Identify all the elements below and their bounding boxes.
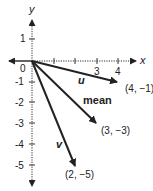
y-tick-label: -4	[15, 139, 24, 150]
vector-u-arrow	[32, 61, 117, 82]
x-axis-label: x	[139, 54, 146, 66]
x-axis	[9, 58, 136, 64]
vector-mean-label: mean	[83, 94, 112, 106]
vector-diagram: x y 0 3 4 1 -1 -2 -3 -4 -5 u mean v (4, …	[0, 0, 153, 191]
point-label-v: (2, −5)	[65, 169, 94, 180]
vector-v-label: v	[56, 138, 63, 150]
y-axis	[29, 20, 35, 186]
vector-mean-arrow	[32, 61, 96, 123]
y-tick-label: -2	[15, 97, 24, 108]
y-tick-label: 1	[20, 33, 26, 44]
y-tick-label: -1	[15, 76, 24, 87]
origin-label: 0	[20, 63, 26, 74]
y-tick-label: -3	[15, 118, 24, 129]
x-tick-label: 3	[94, 66, 100, 77]
point-label-u: (4, −1)	[125, 83, 153, 94]
point-label-mean: (3, −3)	[101, 125, 130, 136]
x-tick-label: 4	[115, 66, 121, 77]
y-axis-label: y	[28, 3, 36, 15]
y-tick-label: -5	[15, 160, 24, 171]
vector-v-arrow	[32, 61, 75, 166]
vector-u-label: u	[78, 74, 85, 86]
